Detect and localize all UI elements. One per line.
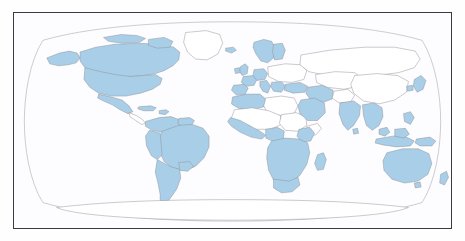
region-iceland[interactable] [226, 47, 237, 53]
region-peru-bolivia[interactable] [146, 130, 163, 159]
region-scandinavia[interactable] [253, 39, 275, 62]
region-tasmania[interactable] [414, 182, 421, 188]
region-papua-new-guinea[interactable] [415, 137, 436, 146]
region-united-kingdom[interactable] [239, 64, 248, 76]
region-new-zealand[interactable] [440, 171, 449, 185]
region-india[interactable] [339, 101, 361, 130]
region-iberia[interactable] [232, 84, 249, 95]
region-italy[interactable] [260, 80, 271, 93]
region-indonesia[interactable] [375, 136, 414, 147]
region-australia[interactable] [383, 149, 432, 183]
region-hispaniola[interactable] [159, 110, 169, 115]
region-antarctica[interactable] [57, 200, 409, 221]
map-viewport[interactable] [14, 13, 451, 228]
region-south-korea[interactable] [406, 85, 413, 91]
region-central-america[interactable] [129, 113, 146, 125]
region-ireland[interactable] [234, 68, 240, 74]
region-central-southern-africa[interactable] [267, 138, 310, 185]
region-greenland[interactable] [184, 31, 223, 60]
region-russia[interactable] [300, 47, 420, 76]
region-madagascar[interactable] [315, 153, 327, 171]
world-map[interactable] [14, 13, 451, 228]
region-baffin-island[interactable] [148, 37, 172, 48]
region-alaska[interactable] [47, 51, 80, 66]
region-sri-lanka[interactable] [353, 128, 359, 134]
region-philippines[interactable] [404, 112, 415, 125]
region-myanmar-thailand-indochina[interactable] [362, 103, 383, 130]
region-pakistan-afghanistan[interactable] [332, 89, 354, 103]
region-eastern-europe[interactable] [268, 64, 307, 83]
region-china-mongolia[interactable] [351, 74, 409, 104]
region-canada-arctic[interactable] [104, 35, 146, 44]
region-turkey[interactable] [284, 82, 307, 93]
region-borneo[interactable] [395, 128, 410, 138]
region-mexico[interactable] [98, 94, 133, 114]
region-cuba[interactable] [138, 106, 157, 111]
region-morocco-algeria-tunisia[interactable] [232, 94, 266, 110]
region-japan[interactable] [413, 76, 426, 93]
region-malaysia[interactable] [379, 127, 390, 136]
map-figure-frame [13, 12, 452, 229]
region-finland[interactable] [273, 43, 286, 60]
screenshot-root [0, 0, 465, 241]
region-greece-balkans[interactable] [271, 81, 286, 92]
